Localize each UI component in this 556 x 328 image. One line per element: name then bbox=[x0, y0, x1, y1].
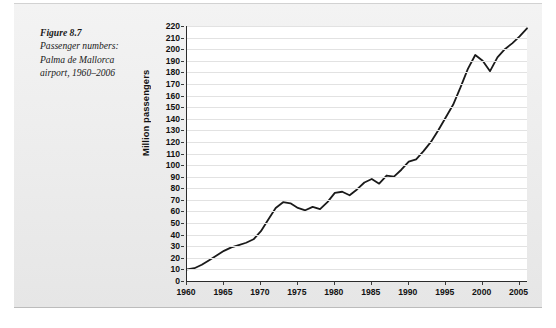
gridline bbox=[187, 119, 527, 120]
y-tick-mark bbox=[181, 38, 184, 39]
gridline bbox=[187, 96, 527, 97]
y-tick-mark bbox=[181, 130, 184, 131]
x-tick-mark bbox=[445, 282, 446, 285]
y-tick-mark bbox=[181, 84, 184, 85]
gridline bbox=[187, 200, 527, 201]
y-tick-label: 30 bbox=[170, 241, 180, 251]
gridline bbox=[187, 246, 527, 247]
y-tick-label: 10 bbox=[170, 264, 180, 274]
y-axis-ticks: 0102030405060708090100110120130140150160… bbox=[156, 14, 184, 304]
y-tick-mark bbox=[181, 72, 184, 73]
gridline bbox=[187, 84, 527, 85]
line-chart: Million passengers 010203040506070809010… bbox=[144, 14, 544, 304]
y-tick-label: 170 bbox=[166, 79, 180, 89]
y-tick-mark bbox=[181, 269, 184, 270]
figure-container: Figure 8.7 Passenger numbers: Palma de M… bbox=[14, 3, 542, 308]
y-tick-mark bbox=[181, 49, 184, 50]
x-tick-label: 1995 bbox=[435, 287, 454, 297]
gridline bbox=[187, 165, 527, 166]
y-tick-label: 210 bbox=[166, 33, 180, 43]
y-tick-mark bbox=[181, 223, 184, 224]
x-tick-label: 1980 bbox=[324, 287, 343, 297]
y-tick-mark bbox=[181, 246, 184, 247]
y-tick-label: 80 bbox=[170, 183, 180, 193]
y-tick-label: 120 bbox=[166, 137, 180, 147]
x-tick-label: 1970 bbox=[250, 287, 269, 297]
y-axis-label: Million passengers bbox=[140, 26, 156, 156]
gridline bbox=[187, 26, 527, 27]
y-tick-label: 160 bbox=[166, 91, 180, 101]
passenger-series-line bbox=[187, 28, 527, 269]
y-tick-label: 20 bbox=[170, 253, 180, 263]
x-tick-mark bbox=[371, 282, 372, 285]
x-tick-mark bbox=[408, 282, 409, 285]
gridline bbox=[187, 38, 527, 39]
y-tick-mark bbox=[181, 142, 184, 143]
gridline bbox=[187, 211, 527, 212]
gridline bbox=[187, 223, 527, 224]
y-tick-mark bbox=[181, 61, 184, 62]
y-tick-label: 220 bbox=[166, 21, 180, 31]
y-tick-mark bbox=[181, 235, 184, 236]
y-tick-label: 40 bbox=[170, 230, 180, 240]
y-tick-mark bbox=[181, 281, 184, 282]
x-tick-label: 1965 bbox=[213, 287, 232, 297]
figure-caption: Figure 8.7 Passenger numbers: Palma de M… bbox=[40, 26, 136, 80]
gridline bbox=[187, 107, 527, 108]
gridline bbox=[187, 154, 527, 155]
y-tick-mark bbox=[181, 177, 184, 178]
y-tick-mark bbox=[181, 188, 184, 189]
gridline bbox=[187, 61, 527, 62]
y-tick-mark bbox=[181, 96, 184, 97]
y-tick-mark bbox=[181, 107, 184, 108]
plot-area bbox=[186, 26, 527, 282]
x-tick-label: 2000 bbox=[472, 287, 491, 297]
x-tick-mark bbox=[297, 282, 298, 285]
y-tick-label: 110 bbox=[166, 149, 180, 159]
x-tick-label: 1960 bbox=[176, 287, 195, 297]
x-tick-mark bbox=[482, 282, 483, 285]
x-tick-label: 1975 bbox=[287, 287, 306, 297]
y-tick-mark bbox=[181, 211, 184, 212]
x-tick-label: 2005 bbox=[509, 287, 528, 297]
y-tick-label: 200 bbox=[166, 44, 180, 54]
y-tick-mark bbox=[181, 200, 184, 201]
x-tick-mark bbox=[334, 282, 335, 285]
y-tick-label: 100 bbox=[166, 160, 180, 170]
y-tick-label: 60 bbox=[170, 206, 180, 216]
x-tick-mark bbox=[186, 282, 187, 285]
gridline bbox=[187, 177, 527, 178]
y-tick-label: 140 bbox=[166, 114, 180, 124]
y-tick-label: 150 bbox=[166, 102, 180, 112]
y-tick-label: 0 bbox=[175, 276, 180, 286]
figure-label: Figure 8.7 bbox=[40, 26, 136, 39]
x-tick-mark bbox=[519, 282, 520, 285]
gridline bbox=[187, 49, 527, 50]
y-tick-mark bbox=[181, 258, 184, 259]
x-tick-mark bbox=[260, 282, 261, 285]
x-tick-mark bbox=[223, 282, 224, 285]
gridline bbox=[187, 142, 527, 143]
y-tick-label: 180 bbox=[166, 67, 180, 77]
x-tick-label: 1990 bbox=[398, 287, 417, 297]
gridline bbox=[187, 130, 527, 131]
x-axis-ticks: 1960196519701975198019851990199520002005 bbox=[186, 282, 526, 302]
figure-caption-text: Passenger numbers: Palma de Mallorca air… bbox=[40, 39, 136, 79]
y-tick-mark bbox=[181, 165, 184, 166]
gridline bbox=[187, 188, 527, 189]
y-tick-mark bbox=[181, 154, 184, 155]
gridline bbox=[187, 72, 527, 73]
y-tick-mark bbox=[181, 26, 184, 27]
y-tick-label: 70 bbox=[170, 195, 180, 205]
y-tick-mark bbox=[181, 119, 184, 120]
y-tick-label: 50 bbox=[170, 218, 180, 228]
gridline bbox=[187, 269, 527, 270]
x-tick-label: 1985 bbox=[361, 287, 380, 297]
gridline bbox=[187, 235, 527, 236]
y-tick-label: 190 bbox=[166, 56, 180, 66]
gridline bbox=[187, 258, 527, 259]
y-tick-label: 90 bbox=[170, 172, 180, 182]
y-tick-label: 130 bbox=[166, 125, 180, 135]
